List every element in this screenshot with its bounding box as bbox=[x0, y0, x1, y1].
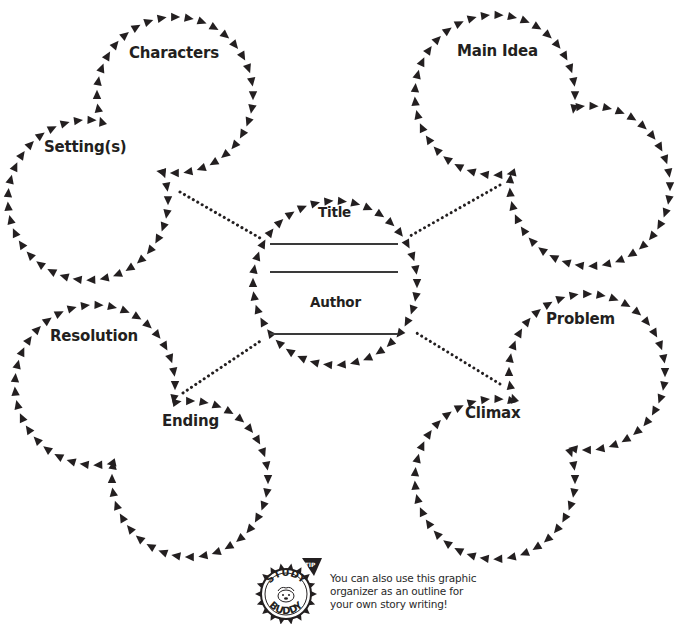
triangle-border-icon bbox=[412, 292, 420, 302]
resolution-circle[interactable] bbox=[11, 301, 179, 469]
triangle-border-icon bbox=[385, 217, 395, 226]
label-problem: Problem bbox=[546, 310, 615, 328]
triangle-border-icon bbox=[582, 446, 591, 454]
triangle-border-icon bbox=[494, 11, 503, 19]
triangle-border-icon bbox=[67, 459, 77, 467]
triangle-border-icon bbox=[246, 524, 255, 534]
triangle-border-icon bbox=[522, 318, 531, 328]
triangle-border-icon bbox=[169, 367, 177, 377]
triangle-border-icon bbox=[657, 220, 665, 230]
triangle-border-icon bbox=[17, 347, 25, 357]
triangle-border-icon bbox=[532, 21, 542, 29]
triangle-border-icon bbox=[565, 447, 573, 457]
triangle-border-icon bbox=[652, 406, 660, 416]
triangle-border-icon bbox=[559, 51, 567, 61]
triangle-border-icon bbox=[27, 252, 36, 261]
triangle-border-icon bbox=[285, 212, 295, 221]
triangle-border-icon bbox=[569, 77, 577, 87]
triangle-border-icon bbox=[171, 552, 181, 560]
triangle-border-icon bbox=[660, 381, 668, 391]
triangle-border-icon bbox=[157, 15, 167, 23]
triangle-border-icon bbox=[261, 501, 269, 511]
triangle-border-icon bbox=[658, 394, 666, 404]
triangle-border-icon bbox=[184, 13, 194, 21]
triangle-border-icon bbox=[337, 360, 347, 368]
triangle-border-icon bbox=[93, 76, 101, 86]
triangle-border-icon bbox=[110, 41, 119, 51]
triangle-border-icon bbox=[16, 151, 25, 161]
triangle-border-icon bbox=[411, 481, 419, 490]
triangle-border-icon bbox=[480, 555, 490, 563]
triangle-border-icon bbox=[413, 70, 421, 80]
triangle-border-icon bbox=[454, 21, 464, 29]
triangle-border-icon bbox=[199, 397, 209, 405]
title-line-1[interactable] bbox=[270, 243, 398, 245]
triangle-border-icon bbox=[252, 435, 260, 445]
triangle-border-icon bbox=[198, 551, 208, 559]
main-idea-circle[interactable] bbox=[411, 11, 579, 179]
triangle-border-icon bbox=[405, 317, 413, 327]
triangle-border-icon bbox=[47, 126, 57, 134]
triangle-border-icon bbox=[74, 117, 84, 125]
triangle-border-icon bbox=[161, 222, 169, 232]
triangle-border-icon bbox=[641, 316, 650, 326]
triangle-border-icon bbox=[108, 474, 116, 483]
triangle-border-icon bbox=[93, 461, 102, 469]
triangle-border-icon bbox=[533, 542, 543, 550]
triangle-border-icon bbox=[99, 117, 107, 127]
triangle-border-icon bbox=[413, 279, 421, 288]
triangle-border-icon bbox=[244, 423, 253, 433]
triangle-border-icon bbox=[94, 301, 103, 309]
triangle-border-icon bbox=[596, 290, 606, 298]
title-line-2[interactable] bbox=[270, 271, 398, 273]
triangle-border-icon bbox=[363, 353, 373, 361]
triangle-border-icon bbox=[73, 276, 83, 284]
triangle-border-icon bbox=[569, 461, 577, 471]
triangle-border-icon bbox=[251, 291, 259, 301]
triangle-border-icon bbox=[155, 234, 163, 244]
triangle-border-icon bbox=[8, 215, 16, 225]
label-author: Author bbox=[310, 294, 361, 310]
label-climax: Climax bbox=[465, 404, 521, 422]
triangle-border-icon bbox=[609, 293, 619, 301]
triangle-border-icon bbox=[197, 16, 207, 24]
triangle-border-icon bbox=[43, 446, 53, 455]
triangle-border-icon bbox=[142, 319, 152, 328]
triangle-border-icon bbox=[26, 425, 35, 435]
triangle-border-icon bbox=[120, 514, 128, 524]
triangle-border-icon bbox=[507, 380, 515, 390]
triangle-border-icon bbox=[602, 259, 612, 267]
triangle-border-icon bbox=[442, 412, 452, 421]
triangle-border-icon bbox=[107, 302, 117, 310]
triangle-border-icon bbox=[659, 354, 667, 364]
triangle-border-icon bbox=[119, 32, 129, 41]
triangle-border-icon bbox=[621, 299, 631, 307]
triangle-border-icon bbox=[237, 51, 245, 61]
label-setting: Setting(s) bbox=[44, 138, 127, 156]
triangle-border-icon bbox=[221, 149, 231, 158]
triangle-border-icon bbox=[615, 255, 625, 263]
triangle-border-icon bbox=[110, 487, 118, 497]
label-characters: Characters bbox=[129, 44, 219, 62]
triangle-border-icon bbox=[420, 123, 428, 133]
author-line[interactable] bbox=[270, 333, 398, 335]
triangle-border-icon bbox=[137, 254, 147, 263]
triangle-border-icon bbox=[249, 278, 257, 287]
title-author-circle[interactable] bbox=[249, 197, 421, 369]
triangle-border-icon bbox=[11, 387, 19, 396]
connector-bottom-left bbox=[183, 340, 262, 393]
triangle-border-icon bbox=[252, 251, 260, 261]
triangle-border-icon bbox=[147, 245, 156, 255]
triangle-border-icon bbox=[493, 171, 502, 179]
triangle-border-icon bbox=[185, 553, 194, 561]
triangle-border-icon bbox=[246, 117, 254, 127]
triangle-border-icon bbox=[410, 305, 418, 315]
triangle-border-icon bbox=[571, 475, 579, 484]
triangle-border-icon bbox=[255, 305, 263, 315]
triangle-border-icon bbox=[224, 406, 234, 414]
triangle-border-icon bbox=[257, 239, 265, 249]
triangle-border-icon bbox=[544, 533, 554, 542]
main-idea-second-circle[interactable] bbox=[506, 102, 674, 270]
triangle-border-icon bbox=[323, 361, 332, 369]
triangle-border-icon bbox=[163, 209, 171, 219]
